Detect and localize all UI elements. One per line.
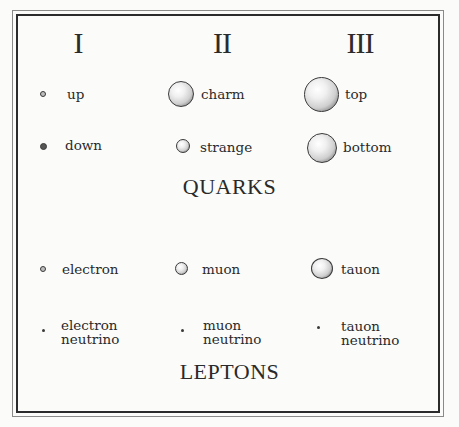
quarks-title: QUARKS xyxy=(0,174,459,200)
leptons-title: LEPTONS xyxy=(0,359,459,385)
electron-neutrino-label-line1: electron xyxy=(61,318,119,332)
electron-dot xyxy=(40,266,46,272)
down-quark-dot xyxy=(40,143,47,150)
inner-frame-border xyxy=(16,14,440,413)
top-quark-sphere xyxy=(304,77,339,112)
generation-2-header: II xyxy=(213,28,231,58)
charm-quark-label: charm xyxy=(201,87,245,101)
generation-1-header: I xyxy=(74,28,83,58)
down-quark-label: down xyxy=(65,138,102,152)
tauon-neutrino-label: tauon neutrino xyxy=(341,319,399,347)
tauon-neutrino-dot xyxy=(317,326,320,329)
tauon-sphere xyxy=(311,258,333,279)
muon-neutrino-label-line2: neutrino xyxy=(203,332,261,346)
muon-neutrino-label-line1: muon xyxy=(203,318,261,332)
tauon-neutrino-label-line2: neutrino xyxy=(341,333,399,347)
strange-quark-label: strange xyxy=(200,140,252,154)
top-quark-label: top xyxy=(345,87,367,101)
muon-sphere xyxy=(175,262,188,275)
up-quark-label: up xyxy=(67,87,84,101)
tauon-neutrino-label-line1: tauon xyxy=(341,319,399,333)
generation-3-header: III xyxy=(347,28,374,58)
electron-neutrino-label: electron neutrino xyxy=(61,318,119,346)
muon-label: muon xyxy=(202,262,240,276)
bottom-quark-sphere xyxy=(307,133,337,163)
muon-neutrino-dot xyxy=(181,329,184,332)
muon-neutrino-label: muon neutrino xyxy=(203,318,261,346)
strange-quark-sphere xyxy=(176,139,190,153)
electron-label: electron xyxy=(62,262,119,276)
up-quark-dot xyxy=(40,91,46,97)
electron-neutrino-label-line2: neutrino xyxy=(61,332,119,346)
bottom-quark-label: bottom xyxy=(343,140,392,154)
charm-quark-sphere xyxy=(168,81,194,107)
tauon-label: tauon xyxy=(341,262,380,276)
electron-neutrino-dot xyxy=(42,329,45,332)
